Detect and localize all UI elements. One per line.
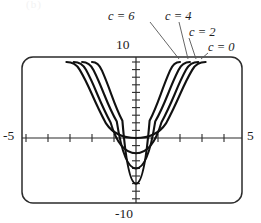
curve-label-c0-text: c = 0 [208,40,234,54]
plot-svg [0,0,261,223]
x-min-label: -5 [3,129,14,143]
leader-c6 [150,22,179,59]
leader-c2 [189,38,196,59]
curve-label-c2-text: c = 2 [189,25,215,39]
y-max-label: 10 [116,38,130,52]
panel-label: (b) [26,0,42,10]
curve-label-c4-text: c = 4 [165,9,191,23]
y-min-label: -10 [115,207,133,221]
leader-c4 [179,22,188,59]
curve-label-c0: c = 0 [208,41,234,54]
curve-label-c2: c = 2 [189,26,215,39]
figure-canvas: (b) c = 6 c = 4 c = 2 c = 0 10 -5 5 -10 [0,0,261,223]
curve-label-c6-text: c = 6 [108,9,134,23]
curve-label-c6: c = 6 [108,10,134,23]
curve-label-c4: c = 4 [165,10,191,23]
x-max-label: 5 [247,129,254,143]
